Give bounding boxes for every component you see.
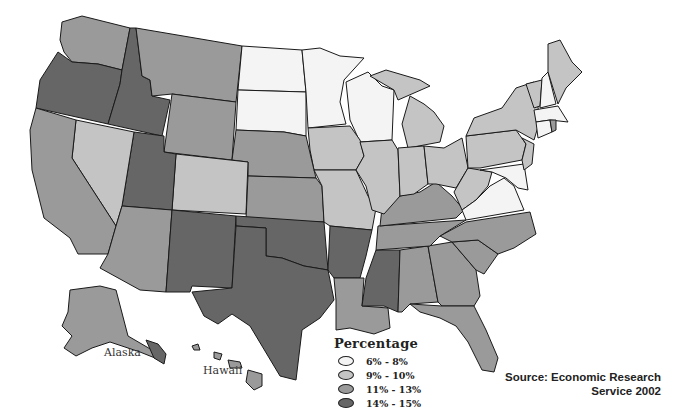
state-montana	[136, 28, 242, 102]
state-arkansas	[328, 226, 372, 278]
state-kansas	[246, 176, 324, 222]
state-hawaii-2	[214, 352, 222, 360]
hawaii-label: Hawaii	[203, 364, 242, 377]
legend-label: 6% - 8%	[366, 356, 408, 367]
legend: Percentage 6% - 8% 9% - 10% 11% - 13% 14…	[334, 336, 454, 410]
states-layer	[30, 16, 582, 390]
state-michigan-lower	[402, 96, 444, 148]
source-line-1: Source: Economic Research	[505, 370, 661, 384]
legend-label: 11% - 13%	[366, 384, 421, 395]
state-hawaii-1	[192, 344, 200, 350]
state-hawaii-big-island	[246, 370, 262, 390]
legend-item: 6% - 8%	[334, 354, 454, 368]
legend-item: 9% - 10%	[334, 368, 454, 382]
legend-item: 14% - 15%	[334, 396, 454, 410]
alaska-label: Alaska	[104, 346, 141, 359]
state-mississippi	[362, 250, 400, 312]
legend-swatch-icon	[338, 384, 354, 394]
source-credit: Source: Economic Research Service 2002	[505, 370, 661, 398]
state-colorado	[172, 154, 248, 214]
state-pennsylvania	[466, 130, 526, 168]
legend-swatch-icon	[338, 356, 354, 366]
legend-swatch-icon	[338, 370, 354, 380]
legend-item: 11% - 13%	[334, 382, 454, 396]
state-new-mexico	[166, 210, 236, 292]
source-line-2: Service 2002	[505, 384, 661, 398]
legend-swatch-icon	[338, 398, 354, 408]
state-indiana	[398, 146, 428, 196]
state-connecticut	[536, 120, 552, 138]
state-north-dakota	[238, 46, 306, 92]
legend-label: 14% - 15%	[366, 398, 421, 409]
legend-title: Percentage	[334, 336, 454, 351]
state-wyoming	[164, 94, 236, 160]
state-south-dakota	[236, 90, 306, 136]
legend-label: 9% - 10%	[366, 370, 414, 381]
